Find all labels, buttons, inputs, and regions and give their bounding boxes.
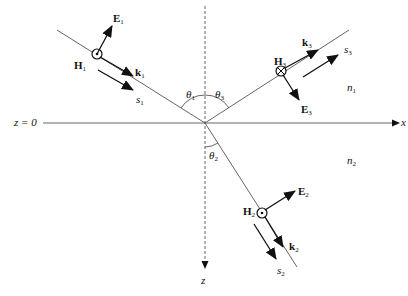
e1-arrow [97, 26, 112, 54]
transmitted-ray [205, 123, 297, 267]
s1-label: s1 [136, 94, 144, 107]
k2-arrow [265, 217, 283, 247]
h3-label: H3 [274, 56, 286, 69]
k3-arrow [285, 50, 318, 68]
theta2-arc [205, 143, 218, 147]
reflected-ray [205, 30, 349, 123]
k1-label: k1 [135, 67, 145, 80]
k3-label: k3 [302, 37, 312, 50]
e2-label: E2 [298, 186, 309, 199]
interface-label: z = 0 [14, 117, 37, 128]
s3-label: s3 [344, 44, 352, 57]
incident-vectors [92, 26, 133, 90]
k1-arrow [100, 57, 133, 76]
s3-arrow [303, 55, 338, 77]
e3-arrow [283, 75, 299, 100]
e1-label: E1 [113, 13, 124, 26]
k2-label: k2 [289, 241, 299, 254]
theta1-label: θ1 [186, 89, 195, 102]
medium-n2-label: n2 [347, 155, 356, 168]
x-axis-label: x [401, 117, 406, 128]
incident-ray [57, 30, 205, 123]
h1-label: H1 [74, 60, 86, 73]
theta3-label: θ3 [215, 89, 224, 102]
theta2-label: θ2 [209, 150, 218, 163]
diagram-canvas: z = 0 x z n1 n2 θ1 θ3 θ2 E1 H1 k1 s1 k3 … [0, 0, 408, 296]
z-axis [202, 6, 209, 269]
e2-arrow [265, 191, 295, 210]
s2-label: s2 [277, 265, 285, 278]
h2-label: H2 [243, 206, 255, 219]
e3-label: E3 [301, 104, 312, 117]
z-axis-label: z [201, 275, 205, 286]
medium-n1-label: n1 [347, 82, 356, 95]
x-axis [43, 120, 400, 127]
